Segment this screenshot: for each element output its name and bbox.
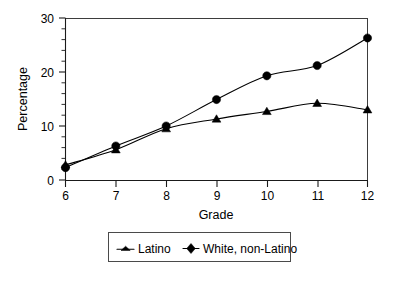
- series-latino: [61, 99, 372, 168]
- x-axis: 6 7 8 9 10 11 12 Grade: [62, 181, 374, 223]
- x-tick-label-12: 12: [361, 189, 375, 203]
- chart-legend: Latino White, non-Latino: [109, 233, 298, 262]
- data-point-marker: [313, 61, 321, 69]
- data-series-layer: [61, 34, 372, 172]
- y-tick-label-10: 10: [41, 120, 55, 134]
- data-point-marker: [363, 34, 371, 42]
- legend-label-latino: Latino: [138, 242, 171, 256]
- y-tick-label-30: 30: [41, 12, 55, 26]
- data-point-marker: [212, 95, 220, 103]
- data-point-marker: [162, 122, 170, 130]
- legend-label-white-non-latino: White, non-Latino: [203, 242, 297, 256]
- x-tick-label-7: 7: [113, 189, 120, 203]
- x-tick-label-9: 9: [214, 189, 221, 203]
- y-tick-label-0: 0: [47, 174, 54, 188]
- y-axis-title: Percentage: [16, 67, 30, 131]
- x-tick-label-11: 11: [312, 189, 325, 203]
- x-tick-label-6: 6: [62, 189, 69, 203]
- line-chart: 0 10 20 30 Percentage 6 7 8 9 10 11 12 G…: [0, 0, 400, 281]
- data-point-marker: [263, 72, 271, 80]
- series-white-non-latino: [61, 34, 371, 172]
- x-tick-label-10: 10: [261, 189, 275, 203]
- data-point-marker: [112, 142, 120, 150]
- x-tick-label-8: 8: [163, 189, 170, 203]
- chart-figure: 0 10 20 30 Percentage 6 7 8 9 10 11 12 G…: [0, 0, 400, 281]
- y-axis: 0 10 20 30 Percentage: [16, 12, 66, 188]
- data-point-marker: [61, 163, 69, 171]
- series-line-0: [66, 103, 368, 165]
- y-tick-label-20: 20: [41, 66, 55, 80]
- x-axis-title: Grade: [199, 208, 234, 222]
